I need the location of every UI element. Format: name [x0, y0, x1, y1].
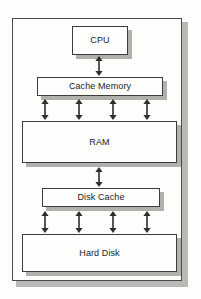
- connector-cpu-to-cache-memory: [94, 56, 104, 76]
- node-cache-memory[interactable]: Cache Memory: [37, 77, 163, 96]
- node-cache-memory-label: Cache Memory: [69, 82, 131, 91]
- connector-cache-memory-to-ram-4: [142, 99, 152, 120]
- connector-disk-cache-to-hard-disk-1: [40, 211, 50, 233]
- diagram-canvas: CPU Cache Memory RAM Disk Cache Hard Dis…: [0, 0, 201, 299]
- connector-cache-memory-to-ram-1: [40, 99, 50, 120]
- node-cpu-label: CPU: [90, 36, 109, 45]
- connector-disk-cache-to-hard-disk-3: [108, 211, 118, 233]
- node-ram[interactable]: RAM: [22, 121, 177, 163]
- connector-ram-to-disk-cache: [94, 167, 104, 187]
- node-disk-cache-label: Disk Cache: [77, 193, 124, 202]
- node-disk-cache[interactable]: Disk Cache: [42, 188, 160, 207]
- connector-cache-memory-to-ram-2: [74, 99, 84, 120]
- node-ram-label: RAM: [89, 138, 109, 147]
- connector-disk-cache-to-hard-disk-4: [142, 211, 152, 233]
- node-hard-disk-label: Hard Disk: [79, 249, 119, 258]
- connector-disk-cache-to-hard-disk-2: [74, 211, 84, 233]
- connector-cache-memory-to-ram-3: [108, 99, 118, 120]
- node-cpu[interactable]: CPU: [72, 26, 128, 55]
- node-hard-disk[interactable]: Hard Disk: [22, 234, 177, 272]
